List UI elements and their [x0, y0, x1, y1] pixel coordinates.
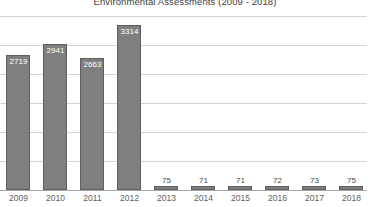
- bar-slot: 75: [333, 16, 370, 190]
- bar[interactable]: [6, 55, 30, 190]
- bar-slot: 71: [185, 16, 222, 190]
- chart-title: Environmental Assessments (2009 - 2018): [0, 0, 370, 7]
- x-axis-tick-label: 2010: [37, 192, 74, 204]
- x-axis-tick-label: 2015: [222, 192, 259, 204]
- bar-slot: 3314: [111, 16, 148, 190]
- bar-value-label: 75: [333, 176, 370, 185]
- x-axis-tick-label: 2018: [333, 192, 370, 204]
- x-axis-tick-label: 2009: [0, 192, 37, 204]
- bar-slot: 75: [148, 16, 185, 190]
- bar-value-label: 71: [185, 176, 222, 185]
- x-axis-tick-label: 2012: [111, 192, 148, 204]
- x-axis-tick-label: 2013: [148, 192, 185, 204]
- x-axis-tick-label: 2011: [74, 192, 111, 204]
- bar-slot: 73: [296, 16, 333, 190]
- bar-slot: 2719: [0, 16, 37, 190]
- x-axis-tick-label: 2014: [185, 192, 222, 204]
- bar-slot: 71: [222, 16, 259, 190]
- bar[interactable]: [117, 25, 141, 190]
- bar-slot: 2663: [74, 16, 111, 190]
- bar-value-label: 2719: [0, 57, 37, 66]
- bar[interactable]: [80, 58, 104, 190]
- bar-value-label: 75: [148, 176, 185, 185]
- bar[interactable]: [43, 44, 67, 190]
- bar-chart: Environmental Assessments (2009 - 2018) …: [0, 0, 370, 207]
- bar-value-label: 3314: [111, 27, 148, 36]
- x-axis-tick-label: 2016: [259, 192, 296, 204]
- x-axis-labels: 2009201020112012201320142015201620172018: [0, 192, 370, 207]
- bar-value-label: 73: [296, 176, 333, 185]
- bar-value-label: 2941: [37, 46, 74, 55]
- x-axis-tick-label: 2017: [296, 192, 333, 204]
- bar-slot: 72: [259, 16, 296, 190]
- plot-area: 2719294126633314757171727375: [0, 16, 370, 190]
- bar-value-label: 71: [222, 176, 259, 185]
- bar-value-label: 72: [259, 176, 296, 185]
- bar-slot: 2941: [37, 16, 74, 190]
- bar-value-label: 2663: [74, 60, 111, 69]
- x-axis-line: [0, 190, 367, 191]
